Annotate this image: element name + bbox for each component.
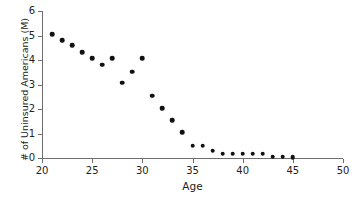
y-tick-mark — [38, 109, 42, 110]
data-point — [110, 56, 115, 61]
x-tick-mark — [193, 159, 194, 163]
x-tick-mark — [42, 159, 43, 163]
data-point — [80, 50, 85, 55]
x-tick-label: 20 — [36, 166, 49, 176]
data-point — [130, 69, 135, 74]
data-point — [50, 32, 55, 37]
data-point — [60, 38, 65, 43]
y-tick-mark — [38, 36, 42, 37]
data-point — [291, 155, 296, 160]
y-tick-mark — [38, 85, 42, 86]
data-point — [160, 106, 165, 111]
data-point — [100, 63, 105, 68]
data-point — [90, 56, 95, 61]
x-tick-label: 25 — [86, 166, 99, 176]
x-tick-label: 40 — [236, 166, 249, 176]
x-tick-label: 50 — [337, 166, 350, 176]
data-point — [190, 143, 195, 148]
data-point — [210, 148, 215, 153]
x-tick-label: 45 — [286, 166, 299, 176]
x-tick-mark — [243, 159, 244, 163]
x-tick-mark — [92, 159, 93, 163]
plot-area: 20253035404550 0123456 — [0, 0, 355, 198]
data-point — [170, 118, 175, 123]
data-point — [180, 130, 185, 135]
y-tick-mark — [38, 11, 42, 12]
data-point — [220, 151, 225, 156]
data-point — [70, 43, 75, 48]
x-tick-label: 35 — [186, 166, 199, 176]
y-axis-line — [42, 11, 43, 158]
x-axis-title: Age — [42, 180, 343, 192]
data-point — [120, 80, 125, 85]
x-tick-mark — [343, 159, 344, 163]
data-point — [230, 151, 235, 156]
x-tick-mark — [293, 159, 294, 163]
data-point — [200, 143, 205, 148]
data-point — [250, 151, 255, 156]
x-tick-label: 30 — [136, 166, 149, 176]
scatter-chart: 20253035404550 0123456 Age # of Uninsure… — [0, 0, 355, 198]
y-tick-mark — [38, 158, 42, 159]
data-point — [281, 154, 286, 159]
y-tick-mark — [38, 60, 42, 61]
y-axis-title: # of Uninsured Americans (M) — [19, 10, 30, 170]
data-point — [240, 151, 245, 156]
data-point — [150, 93, 155, 98]
x-tick-mark — [142, 159, 143, 163]
data-point — [260, 151, 265, 156]
data-point — [270, 154, 275, 159]
data-point — [140, 56, 145, 61]
y-tick-mark — [38, 134, 42, 135]
